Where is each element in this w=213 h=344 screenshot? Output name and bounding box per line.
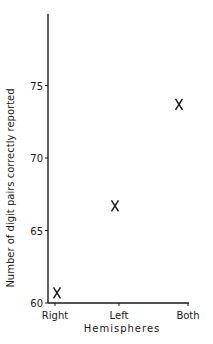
x-tick-label-both: Both: [176, 310, 199, 321]
x-marker-right: [54, 287, 61, 298]
x-marker-left: [112, 200, 119, 211]
y-tick-label: 65: [30, 226, 43, 237]
hemisphere-digit-pairs-chart: 60657075 RightLeftBoth Number of digit p…: [0, 0, 213, 344]
x-tick-label-right: Right: [42, 310, 68, 321]
y-axis-label: Number of digit pairs correctly reported: [5, 88, 16, 287]
y-axis: 60657075: [30, 14, 48, 309]
y-tick-label: 75: [30, 81, 43, 92]
y-tick-label: 60: [30, 298, 43, 309]
data-points: [54, 99, 183, 299]
y-tick-label: 70: [30, 153, 43, 164]
x-axis-label: Hemispheres: [84, 323, 161, 334]
x-marker-both: [176, 99, 183, 110]
x-axis: RightLeftBoth: [42, 303, 200, 321]
x-tick-label-left: Left: [110, 310, 129, 321]
